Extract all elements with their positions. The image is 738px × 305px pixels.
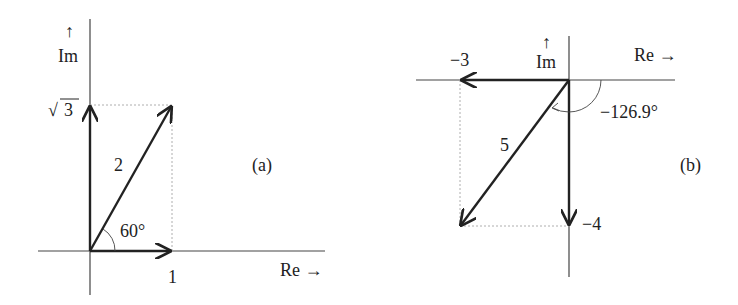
panel-a-sqrt-sign: √	[48, 100, 58, 120]
panel-b-magnitude: 5	[500, 135, 509, 155]
panel-a-im-value: 3	[64, 100, 73, 120]
panel-a-angle: 60°	[120, 221, 145, 241]
panel-a-magnitude: 2	[114, 155, 123, 175]
panel-b-phasor-vector	[461, 80, 569, 225]
panel-a-re-label: Re →	[280, 260, 323, 280]
panel-b-re-value: −3	[450, 50, 469, 70]
panel-b-im-arrow: ↑	[542, 32, 551, 52]
panel-a-im-label: Im	[58, 46, 78, 66]
panel-b-re-label: Re →	[634, 45, 677, 65]
panel-b-tag: (b)	[680, 155, 701, 176]
panel-a: ↑ Im √ 3 2 (a) 60° 1 Re →	[38, 19, 325, 295]
panel-b-im-label: Im	[536, 52, 556, 72]
panel-a-tag: (a)	[252, 155, 272, 176]
panel-b-angle: −126.9°	[600, 102, 658, 122]
panel-a-re-value: 1	[168, 267, 177, 287]
panel-a-angle-arc	[103, 229, 115, 251]
panel-b: −3 ↑ Im Re → −126.9° 5 (b) −4	[416, 32, 701, 277]
panel-a-im-arrow: ↑	[65, 21, 74, 41]
phasor-diagrams: ↑ Im √ 3 2 (a) 60° 1 Re → −3 ↑ Im Re → −…	[0, 0, 738, 305]
panel-b-im-value: −4	[582, 214, 601, 234]
panel-b-angle-arc	[553, 80, 601, 112]
